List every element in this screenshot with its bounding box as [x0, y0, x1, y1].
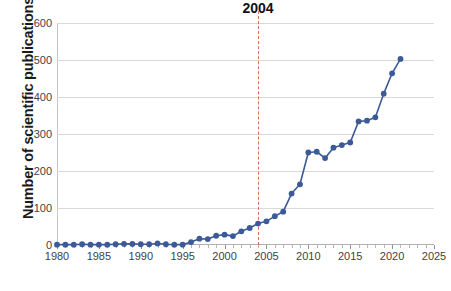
- data-point: [280, 209, 286, 215]
- y-tick-label: 600: [34, 17, 52, 29]
- data-point: [155, 241, 161, 247]
- x-major-tick: [434, 245, 435, 249]
- x-minor-tick: [208, 245, 209, 248]
- data-point: [255, 221, 261, 227]
- x-minor-tick: [367, 245, 368, 248]
- data-point: [364, 118, 370, 124]
- data-point: [113, 241, 119, 247]
- data-point: [305, 150, 311, 156]
- x-minor-tick: [417, 245, 418, 248]
- data-point: [372, 114, 378, 120]
- data-point: [381, 91, 387, 97]
- data-point: [130, 241, 136, 247]
- x-minor-tick: [426, 245, 427, 248]
- x-tick-label: 2015: [338, 250, 362, 262]
- series-line: [57, 59, 400, 245]
- x-tick-label: 2010: [296, 250, 320, 262]
- data-point: [289, 191, 295, 197]
- x-minor-tick: [384, 245, 385, 248]
- x-minor-tick: [283, 245, 284, 248]
- x-minor-tick: [409, 245, 410, 248]
- x-minor-tick: [233, 245, 234, 248]
- x-tick-label: 2020: [380, 250, 404, 262]
- x-minor-tick: [292, 245, 293, 248]
- x-tick-label: 1980: [45, 250, 69, 262]
- data-point: [230, 233, 236, 239]
- x-major-tick: [308, 245, 309, 249]
- data-point: [146, 241, 152, 247]
- data-point: [71, 242, 77, 248]
- data-point: [339, 142, 345, 148]
- data-point: [88, 242, 94, 248]
- x-minor-tick: [333, 245, 334, 248]
- data-point: [356, 119, 362, 125]
- x-minor-tick: [216, 245, 217, 248]
- y-tick-label: 500: [34, 54, 52, 66]
- x-minor-tick: [275, 245, 276, 248]
- data-point: [331, 145, 337, 151]
- data-point: [238, 228, 244, 234]
- y-tick-label: 300: [34, 128, 52, 140]
- series-markers: [54, 56, 403, 248]
- data-point: [163, 241, 169, 247]
- x-minor-tick: [359, 245, 360, 248]
- data-point: [188, 239, 194, 245]
- y-axis-title: Number of scientific publications: [20, 0, 36, 228]
- x-minor-tick: [325, 245, 326, 248]
- data-point: [264, 218, 270, 224]
- x-major-tick: [350, 245, 351, 249]
- x-tick-label: 2000: [212, 250, 236, 262]
- x-minor-tick: [342, 245, 343, 248]
- x-minor-tick: [258, 245, 259, 248]
- publications-line-chart: Number of scientific publications 010020…: [0, 0, 451, 291]
- x-tick-label: 2005: [254, 250, 278, 262]
- x-major-tick: [392, 245, 393, 249]
- data-point: [54, 242, 60, 248]
- x-minor-tick: [300, 245, 301, 248]
- annotation-label: 2004: [242, 0, 273, 16]
- data-point: [197, 236, 203, 242]
- data-point: [79, 241, 85, 247]
- y-tick-label: 100: [34, 202, 52, 214]
- x-minor-tick: [375, 245, 376, 248]
- y-tick-label: 400: [34, 91, 52, 103]
- data-point: [96, 242, 102, 248]
- data-point: [322, 155, 328, 161]
- x-tick-label: 1995: [170, 250, 194, 262]
- x-minor-tick: [241, 245, 242, 248]
- data-point: [171, 242, 177, 248]
- data-point: [222, 232, 228, 238]
- data-point: [104, 242, 110, 248]
- x-minor-tick: [191, 245, 192, 248]
- data-point: [138, 241, 144, 247]
- plot-area: 0100200300400500600 19801985199019952000…: [57, 23, 434, 245]
- x-major-tick: [225, 245, 226, 249]
- data-point: [347, 140, 353, 146]
- x-minor-tick: [250, 245, 251, 248]
- x-tick-label: 1990: [129, 250, 153, 262]
- y-tick-label: 200: [34, 165, 52, 177]
- data-point: [121, 241, 127, 247]
- x-minor-tick: [199, 245, 200, 248]
- data-point: [205, 236, 211, 242]
- x-tick-label: 1985: [87, 250, 111, 262]
- x-major-tick: [266, 245, 267, 249]
- data-point: [180, 242, 186, 248]
- data-point: [213, 233, 219, 239]
- data-point: [398, 56, 404, 62]
- data-point: [62, 242, 68, 248]
- data-point: [247, 225, 253, 231]
- data-point: [389, 70, 395, 76]
- x-minor-tick: [400, 245, 401, 248]
- x-minor-tick: [317, 245, 318, 248]
- x-tick-label: 2025: [422, 250, 446, 262]
- data-point: [297, 181, 303, 187]
- data-point: [272, 213, 278, 219]
- data-series: [57, 23, 434, 245]
- data-point: [314, 149, 320, 155]
